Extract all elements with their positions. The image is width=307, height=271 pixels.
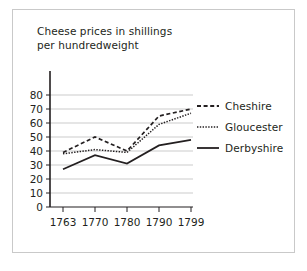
y-tick-label: 20	[30, 173, 43, 185]
x-tick-label: 1763	[50, 216, 77, 228]
y-tick-label: 80	[30, 89, 43, 101]
x-tick-label: 1780	[114, 216, 141, 228]
legend-item-gloucester[interactable]: Gloucester	[197, 116, 302, 137]
legend-label-gloucester: Gloucester	[225, 121, 283, 133]
solid-line-swatch	[197, 143, 219, 153]
y-tick-label: 0	[36, 201, 43, 213]
legend-label-derbyshire: Derbyshire	[225, 142, 283, 154]
x-tick-label: 1799	[178, 216, 205, 228]
y-tick-label: 60	[30, 117, 43, 129]
dashed-line-swatch	[197, 101, 219, 111]
chart-legend: Cheshire Gloucester Derbyshire	[197, 95, 302, 158]
y-tick-label: 30	[30, 159, 43, 171]
legend-label-cheshire: Cheshire	[225, 100, 272, 112]
chart-figure: Cheese prices in shillings per hundredwe…	[0, 0, 307, 271]
data-series	[63, 109, 191, 169]
y-tick-label: 70	[30, 103, 43, 115]
x-tick-label: 1770	[82, 216, 109, 228]
y-tick-label: 50	[30, 131, 43, 143]
legend-item-cheshire[interactable]: Cheshire	[197, 95, 302, 116]
y-tick-label: 40	[30, 145, 43, 157]
dotted-line-swatch	[197, 122, 219, 132]
y-tick-label: 10	[30, 187, 43, 199]
x-tick-marks	[63, 207, 191, 212]
series-line-cheshire	[63, 109, 191, 152]
x-tick-label: 1790	[146, 216, 173, 228]
x-tick-labels: 1763 1770 1780 1790 1799	[50, 216, 205, 228]
series-line-gloucester	[63, 113, 191, 154]
legend-item-derbyshire[interactable]: Derbyshire	[197, 137, 302, 158]
y-tick-labels: 80 70 60 50 40 30 20 10 0	[30, 89, 43, 213]
